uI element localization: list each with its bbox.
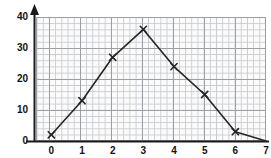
x-tick-label: 0 xyxy=(42,145,60,156)
data-point-marker xyxy=(202,91,208,97)
data-point-marker xyxy=(48,132,54,138)
y-axis xyxy=(30,4,39,142)
data-point-marker xyxy=(171,64,177,70)
x-tick-label: 5 xyxy=(196,145,214,156)
y-tick-label: 0 xyxy=(2,135,28,146)
y-tick-label: 30 xyxy=(2,42,28,53)
line-chart: 010203040 01234567 xyxy=(0,0,271,158)
data-point-marker xyxy=(79,98,85,104)
x-tick-label: 7 xyxy=(257,145,271,156)
x-tick-label: 6 xyxy=(226,145,244,156)
data-point-marker xyxy=(110,54,116,60)
x-tick-label: 1 xyxy=(73,145,91,156)
x-tick-label: 3 xyxy=(134,145,152,156)
y-tick-label: 40 xyxy=(2,11,28,22)
y-tick-label: 20 xyxy=(2,73,28,84)
x-tick-label: 2 xyxy=(104,145,122,156)
series-line xyxy=(51,29,266,141)
chart-svg-overlay xyxy=(0,0,271,158)
series-markers xyxy=(48,26,238,138)
y-tick-label: 10 xyxy=(2,104,28,115)
data-point-marker xyxy=(140,26,146,32)
x-tick-label: 4 xyxy=(165,145,183,156)
